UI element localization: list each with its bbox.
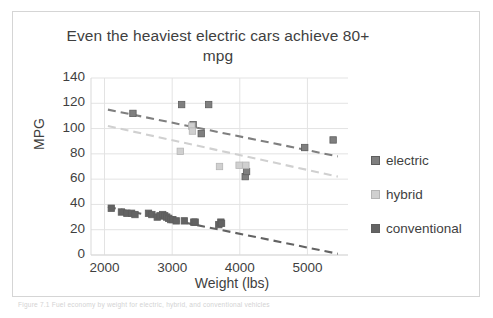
data-point-conventional	[132, 211, 138, 217]
chart-legend: electrichybridconventional	[371, 143, 462, 245]
y-axis-tick-label: 0	[51, 246, 85, 261]
y-axis-tick-label: 60	[51, 170, 85, 185]
data-point-electric	[243, 168, 249, 174]
data-point-conventional	[192, 219, 198, 225]
legend-item-electric[interactable]: electric	[371, 143, 462, 177]
data-point-hybrid	[236, 162, 242, 168]
data-point-conventional	[181, 218, 187, 224]
y-axis-tick-label: 20	[51, 221, 85, 236]
figure-caption: Figure 7.1 Fuel economy by weight for el…	[18, 301, 270, 308]
x-axis-tick-label: 3000	[144, 260, 200, 275]
x-axis-tick-label: 5000	[279, 260, 335, 275]
data-point-electric	[330, 137, 336, 143]
legend-item-label: conventional	[386, 221, 462, 236]
x-axis-tick-label: 2000	[77, 260, 133, 275]
y-axis-tick-label: 120	[51, 94, 85, 109]
data-point-electric	[198, 130, 204, 136]
data-point-hybrid	[177, 148, 183, 154]
data-point-hybrid	[216, 163, 222, 169]
data-point-electric	[302, 144, 308, 150]
legend-item-hybrid[interactable]: hybrid	[371, 177, 462, 211]
data-point-conventional	[218, 220, 224, 226]
y-axis-tick-label: 100	[51, 120, 85, 135]
data-point-hybrid	[189, 128, 195, 134]
data-point-conventional	[108, 205, 114, 211]
y-axis-tick-label: 140	[51, 69, 85, 84]
data-point-electric	[130, 110, 136, 116]
legend-swatch-icon	[371, 156, 380, 165]
legend-item-conventional[interactable]: conventional	[371, 211, 462, 245]
legend-item-label: hybrid	[386, 187, 423, 202]
legend-item-label: electric	[386, 153, 429, 168]
data-point-hybrid	[243, 162, 249, 168]
y-axis-tick-label: 40	[51, 195, 85, 210]
chart-frame: Even the heaviest electric cars achieve …	[12, 11, 480, 297]
trendline-conventional	[108, 207, 338, 254]
figure-container: Even the heaviest electric cars achieve …	[0, 0, 493, 318]
y-axis-tick-label: 80	[51, 145, 85, 160]
x-axis-tick-label: 4000	[212, 260, 268, 275]
legend-swatch-icon	[371, 224, 380, 233]
legend-swatch-icon	[371, 190, 380, 199]
data-point-electric	[205, 101, 211, 107]
data-point-electric	[178, 101, 184, 107]
data-point-conventional	[173, 218, 179, 224]
